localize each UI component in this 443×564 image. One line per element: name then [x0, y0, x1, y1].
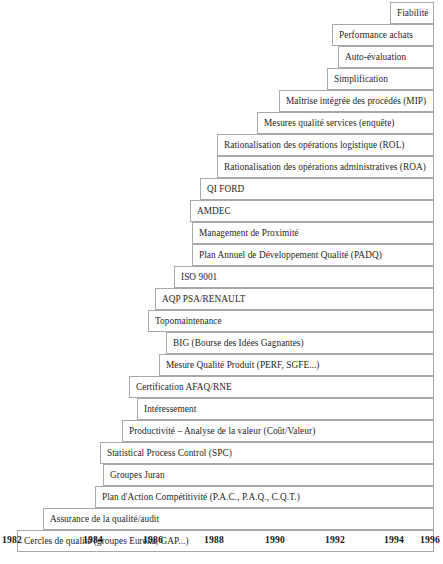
step-row: Statistical Process Control (SPC): [100, 442, 434, 464]
year-tick: 1992: [325, 534, 345, 545]
year-axis: 19821984198619881990199219941996: [0, 534, 443, 556]
step-label: Certification AFAQ/RNE: [130, 382, 232, 393]
step-label: ISO 9001: [175, 272, 217, 283]
step-label: Statistical Process Control (SPC): [101, 448, 232, 459]
step-label: Fiabilité: [391, 8, 428, 19]
step-label: Rationalisation des opérations logistiqu…: [218, 140, 405, 151]
step-row: Intéressement: [137, 398, 434, 420]
step-row: Auto-évaluation: [338, 46, 434, 68]
step-label: Plan d'Action Compétitivité (P.A.C., P.A…: [96, 492, 300, 503]
step-row: Management de Proximité: [192, 222, 434, 244]
step-row: Simplification: [327, 68, 434, 90]
step-row: ISO 9001: [174, 266, 434, 288]
step-label: BIG (Bourse des Idées Gagnantes): [167, 338, 304, 349]
year-tick: 1986: [143, 534, 163, 545]
step-row: Fiabilité: [390, 2, 434, 24]
step-label: Mesures qualité services (enquête): [258, 118, 395, 129]
step-row: Plan d'Action Compétitivité (P.A.C., P.A…: [95, 486, 434, 508]
year-tick: 1996: [420, 534, 440, 545]
step-label: Productivité – Analyse de la valeur (Coû…: [123, 426, 315, 437]
step-label: AQP PSA/RENAULT: [156, 294, 246, 305]
step-row: QI FORD: [200, 178, 434, 200]
step-label: Groupes Juran: [104, 470, 165, 481]
step-row: Groupes Juran: [103, 464, 434, 486]
step-row: Mesures qualité services (enquête): [257, 112, 434, 134]
step-row: Performance achats: [332, 24, 434, 46]
step-label: Auto-évaluation: [339, 52, 406, 63]
step-label: Simplification: [328, 74, 388, 85]
step-label: Performance achats: [333, 30, 413, 41]
step-row: Rationalisation des opérations administr…: [217, 156, 434, 178]
year-tick: 1984: [83, 534, 103, 545]
year-tick: 1982: [2, 534, 22, 545]
year-tick: 1990: [265, 534, 285, 545]
step-row: AQP PSA/RENAULT: [155, 288, 434, 310]
staircase-diagram: FiabilitéPerformance achatsAuto-évaluati…: [0, 0, 443, 530]
step-row: Mesure Qualité Produit (PERF, SGFE...): [159, 354, 434, 376]
step-label: Maîtrise intégrée des procédés (MIP): [280, 96, 426, 107]
step-label: Management de Proximité: [193, 228, 299, 239]
year-tick: 1988: [204, 534, 224, 545]
step-label: Plan Annuel de Développement Qualité (PA…: [193, 250, 382, 261]
step-row: AMDEC: [190, 200, 434, 222]
step-label: AMDEC: [191, 206, 231, 217]
step-label: Topomaintenance: [149, 316, 222, 327]
year-tick: 1994: [384, 534, 404, 545]
step-label: Mesure Qualité Produit (PERF, SGFE...): [160, 360, 320, 371]
step-row: Plan Annuel de Développement Qualité (PA…: [192, 244, 434, 266]
step-row: Certification AFAQ/RNE: [129, 376, 434, 398]
step-row: Rationalisation des opérations logistiqu…: [217, 134, 434, 156]
step-label: QI FORD: [201, 184, 244, 195]
step-row: Maîtrise intégrée des procédés (MIP): [279, 90, 434, 112]
step-row: Productivité – Analyse de la valeur (Coû…: [122, 420, 434, 442]
step-row: Assurance de la qualité/audit: [43, 508, 434, 530]
step-row: Topomaintenance: [148, 310, 434, 332]
step-label: Rationalisation des opérations administr…: [218, 162, 426, 173]
step-row: BIG (Bourse des Idées Gagnantes): [166, 332, 434, 354]
step-label: Intéressement: [138, 404, 196, 415]
step-label: Assurance de la qualité/audit: [44, 514, 159, 525]
